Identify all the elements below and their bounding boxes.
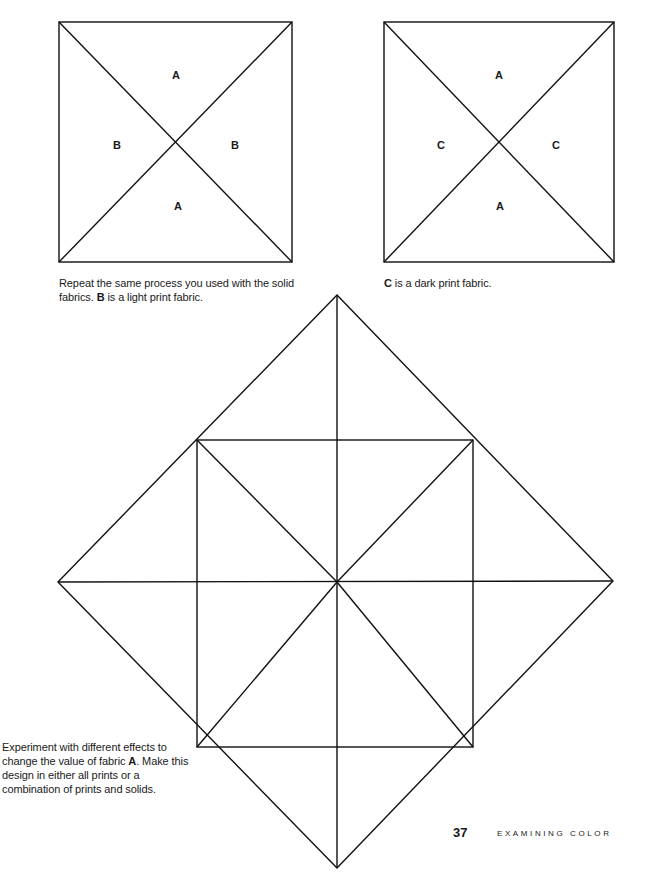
running-head: EXAMINING COLOR xyxy=(497,829,612,838)
block-ac-outline xyxy=(384,22,614,262)
caption-block-ab: Repeat the same process you used with th… xyxy=(59,276,299,304)
block-ac-label-right: C xyxy=(552,139,560,151)
block-ab-outline xyxy=(59,22,292,262)
block-ac-label-top: A xyxy=(495,69,503,81)
block-ab-label-top: A xyxy=(172,69,180,81)
block-ac-label-left: C xyxy=(437,139,445,151)
block-ab-label-bottom: A xyxy=(174,200,182,212)
block-ac-label-bottom: A xyxy=(496,200,504,212)
caption-block-ac: C is a dark print fabric. xyxy=(384,276,614,290)
page-number: 37 xyxy=(453,825,467,840)
block-ab-label-left: B xyxy=(113,139,121,151)
caption-diamond-block: Experiment with different effects to cha… xyxy=(2,740,197,796)
block-ab-label-right: B xyxy=(231,139,239,151)
